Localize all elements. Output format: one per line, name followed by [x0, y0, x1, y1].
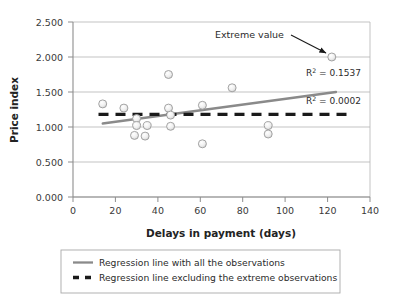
data-point — [131, 131, 139, 139]
x-tick-label-60: 60 — [194, 205, 206, 216]
extreme-value-point — [328, 53, 336, 61]
data-point — [99, 100, 107, 108]
scatter-chart: 2.500 2.000 1.500 1.000 0.500 0.000 0 20… — [0, 0, 396, 304]
data-point — [120, 104, 128, 112]
legend-label-solid: Regression line with all the observation… — [99, 257, 285, 268]
y-axis-title: Price index — [8, 77, 20, 143]
data-point — [198, 140, 206, 148]
data-point — [133, 122, 141, 130]
y-tick-label-1500: 1.500 — [36, 87, 63, 98]
plot-area — [73, 22, 370, 197]
y-axis-ticks — [68, 22, 73, 197]
legend: Regression line with all the observation… — [61, 250, 340, 293]
y-tick-label-2000: 2.000 — [36, 52, 63, 63]
x-tick-label-20: 20 — [109, 205, 121, 216]
y-tick-label-0000: 0.000 — [36, 192, 63, 203]
x-tick-label-40: 40 — [152, 205, 164, 216]
x-tick-label-140: 140 — [361, 205, 379, 216]
y-tick-label-2500: 2.500 — [36, 17, 63, 28]
x-tick-label-100: 100 — [276, 205, 294, 216]
data-point — [228, 84, 236, 92]
data-point — [165, 71, 173, 79]
data-point — [141, 132, 149, 140]
x-tick-label-120: 120 — [319, 205, 337, 216]
data-point — [167, 111, 175, 119]
data-point — [143, 122, 151, 130]
x-tick-label-0: 0 — [70, 205, 76, 216]
x-axis-title: Delays in payment (days) — [146, 227, 296, 239]
data-point — [167, 122, 175, 130]
data-point — [198, 101, 206, 109]
x-axis-ticks — [73, 197, 370, 202]
chart-figure: 2.500 2.000 1.500 1.000 0.500 0.000 0 20… — [0, 0, 396, 304]
y-tick-label-0500: 0.500 — [36, 157, 63, 168]
extreme-value-annotation-label: Extreme value — [215, 29, 284, 40]
x-tick-label-80: 80 — [237, 205, 249, 216]
y-tick-label-1000: 1.000 — [36, 122, 63, 133]
legend-label-dashed: Regression line excluding the extreme ob… — [99, 272, 337, 283]
r2-solid-value: = 0.1537 — [316, 68, 361, 78]
data-point — [264, 122, 272, 130]
r2-dashed-value: = 0.0002 — [316, 96, 361, 106]
data-point — [264, 130, 272, 138]
